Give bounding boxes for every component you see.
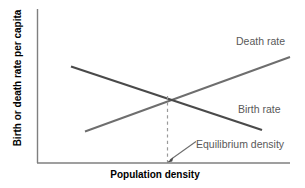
chart-plot-area xyxy=(0,0,305,188)
birth-rate-label: Birth rate xyxy=(238,103,281,115)
chart-figure: Birth or death rate per capita Populatio… xyxy=(0,0,305,188)
x-axis-title: Population density xyxy=(37,168,273,182)
death-rate-line xyxy=(85,57,290,132)
y-axis-title: Birth or death rate per capita xyxy=(10,0,26,172)
death-rate-label: Death rate xyxy=(236,35,285,47)
birth-rate-line xyxy=(71,67,262,131)
equilibrium-density-label: Equilibrium density xyxy=(196,138,284,150)
equilibrium-arrow-icon xyxy=(167,142,196,163)
